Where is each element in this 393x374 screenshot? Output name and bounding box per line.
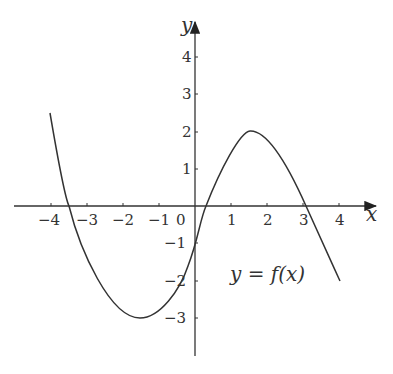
svg-text:3: 3 <box>182 85 192 103</box>
y-tick-labels: 4 3 2 1 −1 −2 −3 <box>164 48 192 327</box>
svg-text:4: 4 <box>335 211 345 229</box>
svg-text:2: 2 <box>182 123 192 141</box>
svg-text:2: 2 <box>263 211 273 229</box>
svg-text:−3: −3 <box>76 211 98 229</box>
svg-text:1: 1 <box>182 160 192 178</box>
svg-text:4: 4 <box>182 48 192 66</box>
svg-text:−2: −2 <box>112 211 134 229</box>
svg-text:−1: −1 <box>164 234 186 252</box>
y-axis-label: y <box>180 13 193 37</box>
x-axis-label: x <box>366 202 377 226</box>
origin-label: 0 <box>176 211 186 229</box>
svg-text:−1: −1 <box>148 211 170 229</box>
svg-text:−4: −4 <box>38 211 60 229</box>
svg-text:−3: −3 <box>164 309 186 327</box>
function-label: y = f(x) <box>229 262 305 286</box>
svg-text:3: 3 <box>299 211 309 229</box>
svg-text:−2: −2 <box>164 272 186 290</box>
svg-text:1: 1 <box>227 211 237 229</box>
x-tick-labels: −4 −3 −2 −1 1 2 3 4 0 <box>38 211 345 229</box>
function-graph: −4 −3 −2 −1 1 2 3 4 0 4 3 2 1 −1 −2 −3 x… <box>0 0 393 374</box>
